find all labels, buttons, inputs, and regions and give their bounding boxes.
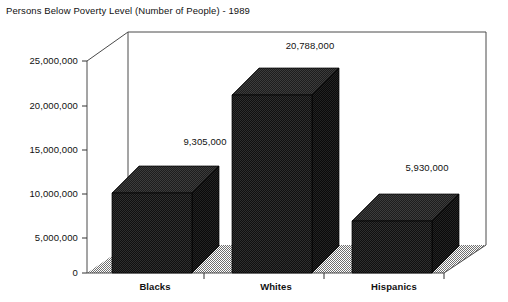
value-label-hispanics: 5,930,000	[372, 162, 482, 173]
category-label-hispanics: Hispanics	[344, 281, 444, 292]
category-label-blacks: Blacks	[105, 281, 205, 292]
bar-blacks[interactable]	[112, 166, 219, 273]
y-tick-label-5000000: 5,000,000	[0, 232, 78, 243]
y-tick-label-0: 0	[0, 267, 78, 278]
bar-whites[interactable]	[232, 68, 339, 273]
value-label-blacks: 9,305,000	[150, 136, 260, 147]
bar-hispanics[interactable]	[352, 194, 459, 273]
y-tick-label-15000000: 15,000,000	[0, 144, 78, 155]
y-tick-label-25000000: 25,000,000	[0, 55, 78, 66]
value-label-whites: 20,788,000	[255, 40, 365, 51]
chart-container: Persons Below Poverty Level (Number of P…	[0, 0, 508, 302]
y-axis-ticks	[82, 61, 87, 273]
y-tick-label-20000000: 20,000,000	[0, 100, 78, 111]
y-tick-label-10000000: 10,000,000	[0, 188, 78, 199]
x-axis-ticks	[204, 273, 444, 279]
category-label-whites: Whites	[226, 281, 326, 292]
